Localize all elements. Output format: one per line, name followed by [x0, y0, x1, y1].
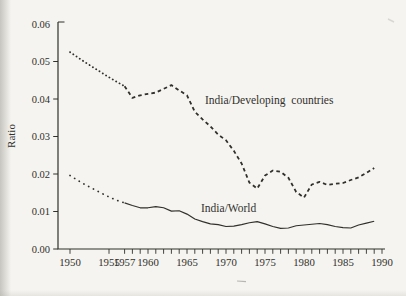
series-line-india-world-dotted-sparse	[70, 176, 125, 203]
x-tick-label: 1980	[293, 256, 315, 268]
scan-smudge	[237, 281, 246, 282]
y-tick-label: 0.02	[32, 169, 50, 180]
y-tick-label: 0.01	[32, 206, 50, 217]
chart-canvas: 0.000.010.020.030.040.050.06195019551957…	[0, 0, 406, 296]
series-india-developing-countries	[70, 52, 374, 198]
y-axis-title: Ratio	[5, 124, 17, 148]
y-tick-label: 0.05	[32, 56, 50, 67]
x-tick-label: 1990	[371, 256, 393, 268]
y-tick-label: 0.00	[32, 244, 50, 255]
x-tick-label: 1957	[114, 256, 136, 268]
x-tick-label: 1970	[215, 256, 237, 268]
x-tick-label: 1960	[137, 256, 159, 268]
y-tick-label: 0.03	[32, 131, 50, 142]
x-tick-label: 1950	[59, 256, 81, 268]
x-tick-label: 1975	[254, 256, 276, 268]
x-tick-label: 1965	[176, 256, 198, 268]
y-tick-label: 0.06	[32, 19, 50, 30]
axis-lines	[58, 22, 385, 249]
x-tick-label: 1985	[332, 256, 354, 268]
scanned-chart-figure: 0.000.010.020.030.040.050.06195019551957…	[0, 0, 406, 296]
series-label-annotation: India/Developing countries	[205, 94, 334, 107]
series-line-india-developing-countries-dotted	[70, 52, 125, 86]
y-tick-label: 0.04	[32, 94, 51, 105]
scan-speck	[388, 19, 394, 22]
series-label-annotation: India/World	[201, 202, 257, 214]
